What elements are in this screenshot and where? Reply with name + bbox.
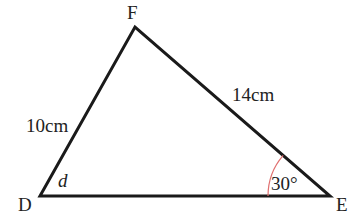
triangle-svg: F D E 10cm 14cm d 30° [0,0,361,219]
triangle-diagram: F D E 10cm 14cm d 30° [0,0,361,219]
side-df-label: 10cm [26,115,68,136]
angle-d-label: d [58,170,68,191]
vertex-d-label: D [18,194,32,215]
angle-e-label: 30° [271,173,298,194]
vertex-f-label: F [127,2,138,23]
vertex-e-label: E [336,194,348,215]
side-fe-label: 14cm [232,84,274,105]
triangle-def [40,27,330,196]
